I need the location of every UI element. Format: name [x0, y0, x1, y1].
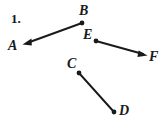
point-c-dot-icon — [77, 71, 82, 76]
geometry-diagram — [0, 0, 165, 126]
point-label-c: C — [67, 57, 76, 71]
ray-ba-line — [27, 23, 82, 43]
ray-ba-arrowhead-icon — [23, 39, 32, 46]
ray-ba — [23, 21, 85, 46]
segment-cd-line — [79, 73, 114, 112]
ray-ef — [94, 39, 148, 57]
segment-cd — [77, 71, 117, 115]
question-number: 1. — [11, 12, 21, 25]
point-label-b: B — [79, 4, 88, 18]
ray-ef-arrowhead-icon — [137, 50, 147, 57]
figure-canvas: 1. A B E F C D — [0, 0, 165, 126]
ray-ef-line — [96, 41, 143, 54]
point-label-d: D — [119, 104, 129, 118]
point-label-a: A — [8, 39, 17, 53]
point-e-dot-icon — [94, 39, 99, 44]
point-d-dot-icon — [112, 110, 117, 115]
point-b-dot-icon — [80, 21, 85, 26]
point-label-e: E — [83, 28, 92, 42]
point-label-f: F — [149, 50, 158, 64]
